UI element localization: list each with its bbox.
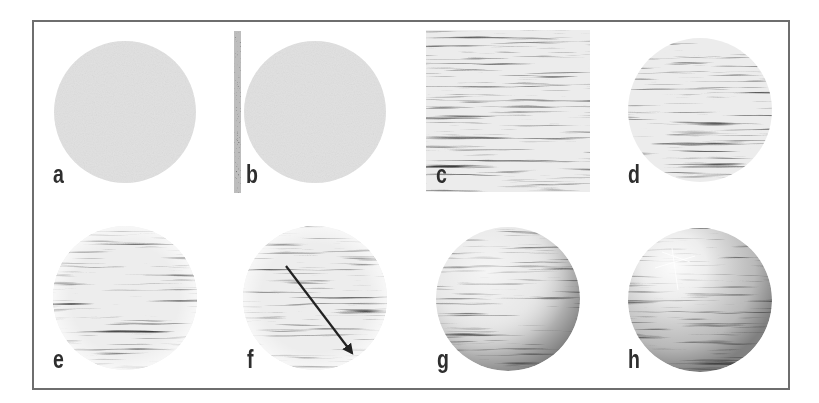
- streak-square-texture: [426, 30, 590, 192]
- panel-label-b: b: [246, 162, 257, 187]
- panel-label-e: e: [53, 347, 63, 372]
- sphere-shading: [436, 227, 580, 371]
- figure-canvas: [0, 0, 819, 403]
- noise-strip-texture: [234, 31, 241, 193]
- sphere-edge: [243, 226, 387, 370]
- panel-label-g: g: [437, 347, 448, 372]
- flat-disc: [54, 41, 196, 183]
- flat-disc: [244, 41, 386, 183]
- panel-label-a: a: [53, 162, 63, 187]
- panel-label-d: d: [628, 162, 639, 187]
- sphere-edge: [53, 226, 197, 370]
- sphere-shading: [628, 228, 772, 372]
- panel-label-c: c: [436, 162, 446, 187]
- panel-g: [436, 227, 580, 371]
- panel-h: [628, 228, 772, 372]
- panel-c: [426, 30, 590, 192]
- panel-e: [53, 226, 197, 370]
- streak-disc-texture: [628, 38, 772, 182]
- panel-label-f: f: [247, 347, 253, 372]
- panel-label-h: h: [628, 347, 639, 372]
- panel-d: [628, 38, 772, 182]
- panel-a: [54, 41, 196, 183]
- panel-f: [243, 226, 387, 370]
